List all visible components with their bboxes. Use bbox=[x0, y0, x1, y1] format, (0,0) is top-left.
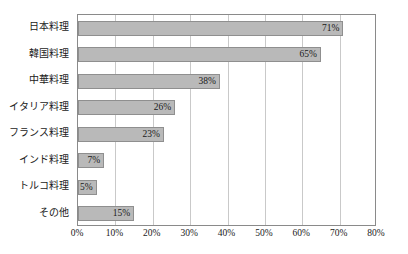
bar-row: 26% bbox=[78, 95, 375, 122]
bar-value-label: 65% bbox=[300, 50, 320, 60]
bar: 65% bbox=[78, 47, 321, 62]
bar-row: 38% bbox=[78, 68, 375, 95]
bar-row: 7% bbox=[78, 148, 375, 175]
bar-row: 5% bbox=[78, 174, 375, 201]
category-label: インド料理 bbox=[0, 147, 69, 174]
x-tick-label: 30% bbox=[180, 229, 197, 239]
plot-area: 71%65%38%26%23%7%5%15% bbox=[77, 14, 376, 226]
x-tick-label: 70% bbox=[330, 229, 347, 239]
category-label: 日本料理 bbox=[0, 14, 69, 41]
bar-row: 71% bbox=[78, 15, 375, 42]
bar-series: 71%65%38%26%23%7%5%15% bbox=[78, 15, 375, 225]
category-label: 中華料理 bbox=[0, 67, 69, 94]
x-tick-label: 20% bbox=[143, 229, 160, 239]
bar-value-label: 7% bbox=[87, 156, 103, 166]
bar-value-label: 5% bbox=[80, 183, 96, 193]
bar-row: 23% bbox=[78, 121, 375, 148]
x-tick-label: 50% bbox=[255, 229, 272, 239]
bar: 38% bbox=[78, 74, 220, 89]
x-tick-label: 40% bbox=[218, 229, 235, 239]
x-tick-label: 10% bbox=[106, 229, 123, 239]
category-label: トルコ料理 bbox=[0, 173, 69, 200]
bar-value-label: 71% bbox=[322, 24, 342, 34]
bar-row: 15% bbox=[78, 201, 375, 228]
bar-value-label: 23% bbox=[143, 130, 163, 140]
category-label: イタリア料理 bbox=[0, 94, 69, 121]
bar-value-label: 15% bbox=[113, 209, 133, 219]
category-label: 韓国料理 bbox=[0, 41, 69, 68]
bar: 7% bbox=[78, 153, 104, 168]
bar: 26% bbox=[78, 100, 175, 115]
bar-chart: 日本料理韓国料理中華料理イタリア料理フランス料理インド料理トルコ料理その他 71… bbox=[0, 0, 408, 254]
bar: 15% bbox=[78, 206, 134, 221]
category-label: その他 bbox=[0, 200, 69, 227]
category-label: フランス料理 bbox=[0, 120, 69, 147]
category-axis: 日本料理韓国料理中華料理イタリア料理フランス料理インド料理トルコ料理その他 bbox=[0, 14, 73, 226]
x-tick-label: 0% bbox=[71, 229, 84, 239]
bar-value-label: 38% bbox=[199, 77, 219, 87]
bar: 5% bbox=[78, 180, 97, 195]
bar-value-label: 26% bbox=[154, 103, 174, 113]
x-axis-tick-labels: 0%10%20%30%40%50%60%70%80% bbox=[0, 229, 408, 245]
bar-row: 65% bbox=[78, 42, 375, 69]
x-tick-label: 60% bbox=[293, 229, 310, 239]
x-tick-label: 80% bbox=[367, 229, 384, 239]
bar: 71% bbox=[78, 21, 343, 36]
bar: 23% bbox=[78, 127, 164, 142]
